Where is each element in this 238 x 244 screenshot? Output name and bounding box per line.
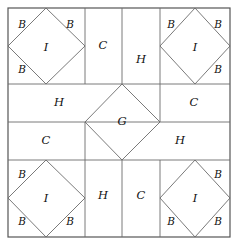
label-edge-right-C: C [190, 95, 199, 109]
label-corner-top-left-B-topleft: B [17, 18, 26, 30]
label-corner-top-right-B-topleft: B [166, 18, 175, 30]
label-corner-bottom-left-B-bottomright: B [65, 215, 74, 227]
label-corner-bottom-left-B-topleft: B [17, 168, 26, 180]
label-edge-right-H: H [174, 133, 186, 147]
label-corner-bottom-right-I: I [192, 191, 198, 205]
label-corner-bottom-right-B-bottomright: B [213, 215, 222, 227]
label-center-G: G [117, 114, 126, 128]
label-edge-top-C: C [99, 38, 108, 52]
label-corner-top-left-B-topright: B [65, 18, 74, 30]
label-corner-top-left-B-bottomleft: B [17, 63, 26, 75]
label-corner-top-right-B-bottomright: B [213, 63, 222, 75]
label-corner-bottom-left-I: I [43, 191, 49, 205]
label-corner-top-right-I: I [192, 40, 198, 54]
label-corner-bottom-right-B-bottomleft: B [166, 215, 175, 227]
label-edge-top-H: H [135, 52, 147, 66]
label-edge-left-H: H [53, 95, 65, 109]
dissection-canvas: I B B B I B B B I B B B I B B B C H H C … [0, 0, 238, 244]
dissection-figure: I B B B I B B B I B B B I B B B C H H C … [0, 0, 238, 244]
label-corner-top-left-I: I [43, 40, 49, 54]
label-edge-left-C: C [42, 133, 51, 147]
label-corner-bottom-right-B-topright: B [213, 168, 222, 180]
label-corner-bottom-left-B-bottomleft: B [17, 215, 26, 227]
label-edge-bottom-C: C [137, 188, 146, 202]
label-edge-bottom-H: H [97, 188, 109, 202]
label-corner-top-right-B-topright: B [213, 18, 222, 30]
